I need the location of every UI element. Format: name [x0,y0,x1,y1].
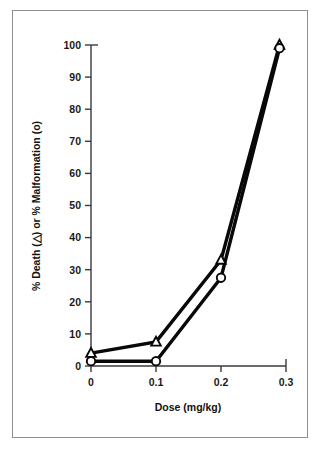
marker-circle [275,44,283,52]
series-line-circle [91,48,280,361]
y-tick-label-group: 0102030405060708090100 [63,39,81,372]
y-tick-label: 0 [75,360,81,372]
marker-triangle [216,255,226,264]
figure-root: 0102030405060708090100 00.10.20.3 Dose (… [0,0,322,449]
x-axis-title: Dose (mg/kg) [155,401,222,413]
y-tick-label: 100 [63,39,81,51]
x-tick-group [91,366,286,372]
marker-circle [217,274,225,282]
x-tick-label: 0 [88,376,94,388]
series-group [91,45,280,361]
y-tick-label: 60 [69,167,81,179]
y-tick-label: 90 [69,71,81,83]
y-tick-label: 30 [69,264,81,276]
marker-triangle [86,348,96,357]
marker-circle [152,357,160,365]
x-tick-label: 0.3 [279,376,294,388]
marker-group [86,40,284,366]
y-tick-label: 50 [69,199,81,211]
y-axis-title: % Death (△) or % Malformation (o) [30,121,42,291]
y-tick-label: 20 [69,296,81,308]
series-line-triangle [91,45,280,353]
marker-circle [87,357,95,365]
y-tick-label: 70 [69,135,81,147]
y-tick-label: 40 [69,231,81,243]
x-tick-label: 0.1 [149,376,164,388]
dose-response-chart: 0102030405060708090100 00.10.20.3 Dose (… [0,0,322,449]
y-tick-label: 10 [69,328,81,340]
x-tick-label: 0.2 [214,376,229,388]
y-tick-label: 80 [69,103,81,115]
x-tick-label-group: 00.10.20.3 [88,376,293,388]
y-tick-group [85,45,91,366]
